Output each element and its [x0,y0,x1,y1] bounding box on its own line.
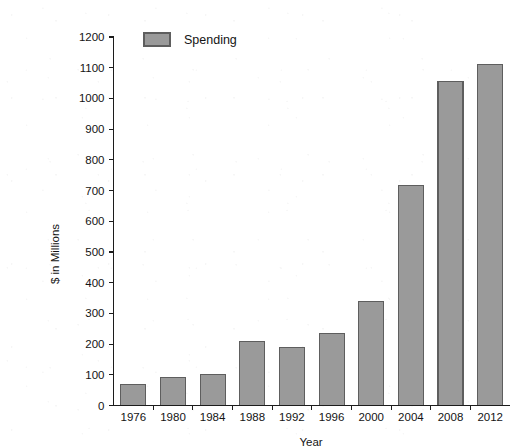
legend-swatch-spending [144,33,170,46]
bar-1980 [161,377,186,405]
y-tick-label-700: 700 [85,185,104,197]
x-tick-label-2008: 2008 [438,411,464,423]
y-axis-ticks-group: 0100200300400500600700800900100011001200 [79,31,114,412]
bar-2012 [478,65,503,406]
chart-legend: Spending [144,33,237,47]
bar-1976 [121,385,146,406]
bar-chart-figure: 0100200300400500600700800900100011001200… [40,16,444,432]
bar-1988 [240,342,265,406]
x-tick-label-2004: 2004 [398,411,424,423]
x-tick-label-1984: 1984 [200,411,226,423]
bar-1984 [200,374,225,405]
y-tick-label-900: 900 [85,123,104,135]
x-tick-label-1992: 1992 [279,411,305,423]
y-tick-label-1100: 1100 [80,62,105,74]
bar-2000 [359,301,384,405]
y-tick-label-800: 800 [85,154,104,166]
y-tick-label-300: 300 [85,307,104,319]
x-tick-label-1988: 1988 [240,411,266,423]
y-tick-label-500: 500 [85,246,104,258]
y-tick-label-1200: 1200 [79,31,105,43]
legend-label-spending: Spending [184,33,237,47]
x-tick-label-2012: 2012 [477,411,503,423]
bar-2004 [398,186,423,406]
x-tick-label-2000: 2000 [358,411,384,423]
x-axis-title: Year [299,436,322,448]
bar-1992 [279,347,304,405]
y-tick-label-100: 100 [85,369,104,381]
y-tick-label-200: 200 [85,338,104,350]
y-tick-label-400: 400 [85,277,104,289]
y-tick-label-600: 600 [85,215,104,227]
bar-2008 [438,82,463,406]
chart-canvas: 0100200300400500600700800900100011001200… [40,16,514,448]
bars-group [121,65,503,406]
x-tick-label-1980: 1980 [160,411,186,423]
y-axis-title: $ in Millions [49,224,61,284]
x-axis-ticks-group: 1976198019841988199219962000200420082012 [121,406,503,424]
y-tick-label-0: 0 [98,400,104,412]
x-tick-label-1976: 1976 [121,411,147,423]
bar-1996 [319,333,344,405]
y-tick-label-1000: 1000 [79,92,105,104]
x-tick-label-1996: 1996 [319,411,345,423]
